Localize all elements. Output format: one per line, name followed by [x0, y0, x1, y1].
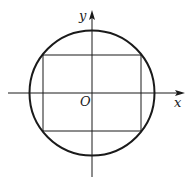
x-axis-label: x: [174, 95, 182, 110]
origin-label: O: [80, 94, 91, 109]
coordinate-diagram: y x O: [0, 0, 186, 179]
y-axis-label: y: [78, 8, 87, 23]
